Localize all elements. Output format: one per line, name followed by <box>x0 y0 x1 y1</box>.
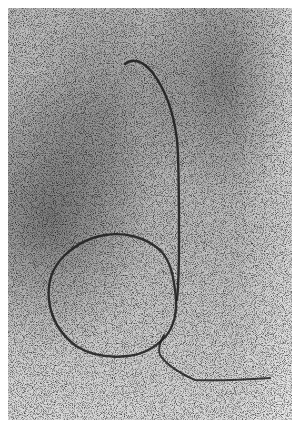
sand-drawing <box>8 8 292 420</box>
sand-photo <box>8 8 292 420</box>
